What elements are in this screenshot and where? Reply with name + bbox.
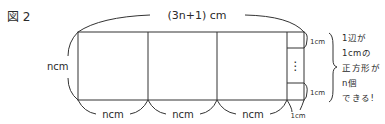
note-line-1: 1辺が <box>342 31 380 46</box>
right-brace <box>329 33 337 102</box>
note-line-3: 正方形が <box>342 61 380 76</box>
outer-rectangle <box>78 32 304 100</box>
small-square-bottom-label: 1cm <box>310 89 325 97</box>
rectangle-diagram: (3n+1) cm ncm ncm ncm ncm 1cm 1cm 1cm ⋮ <box>0 0 385 124</box>
bottom-brace-1a <box>78 100 96 114</box>
left-brace-bottom <box>68 78 78 100</box>
note-line-4: n個 <box>342 76 380 91</box>
top-brace-right <box>245 15 304 32</box>
left-brace-top <box>68 32 78 56</box>
bottom-brace-2a <box>148 100 166 114</box>
bottom-dimension-2: ncm <box>172 109 194 120</box>
bottom-dimension-3: ncm <box>242 109 264 120</box>
annotation-note: 1辺が 1cmの 正方形が n個 できる! <box>342 31 380 106</box>
bottom-brace-2b <box>200 100 217 114</box>
top-brace-left <box>78 15 150 32</box>
top-dimension-label: (3n+1) cm <box>167 9 226 22</box>
note-line-2: 1cmの <box>342 46 380 61</box>
bottom-brace-3a <box>217 100 236 114</box>
left-dimension-label: ncm <box>47 61 69 72</box>
bottom-brace-3b <box>270 100 287 114</box>
note-line-5: できる! <box>342 91 380 106</box>
bottom-brace-1b <box>130 100 148 114</box>
bottom-brace-4b <box>300 100 304 110</box>
bottom-brace-4a <box>287 100 292 112</box>
bottom-dimension-4: 1cm <box>290 112 305 120</box>
small-square-top-label: 1cm <box>310 38 325 46</box>
bottom-dimension-1: ncm <box>102 109 124 120</box>
ellipsis: ⋮ <box>290 59 302 73</box>
